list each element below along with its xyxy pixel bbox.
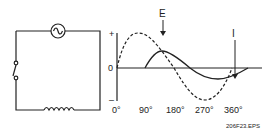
- figure-id: 206F23.EPS: [226, 123, 260, 129]
- graph: + 0 – 0° 90° 180° 270° 360° E I 206F23.E…: [108, 8, 262, 129]
- voltage-arrowhead: [160, 31, 166, 36]
- switch-contact-bottom: [14, 76, 18, 80]
- switch-blade: [13, 65, 16, 76]
- current-arrowhead: [232, 74, 238, 79]
- x-tick-90: 90°: [139, 105, 153, 115]
- x-tick-0: 0°: [112, 105, 121, 115]
- switch-contact-top: [14, 61, 18, 65]
- x-tick-270: 270°: [195, 105, 214, 115]
- ac-inductive-circuit-diagram: + 0 – 0° 90° 180° 270° 360° E I 206F23.E…: [0, 0, 277, 133]
- y-zero-label: 0: [108, 63, 113, 73]
- voltage-label: E: [159, 8, 166, 19]
- x-tick-180: 180°: [166, 105, 185, 115]
- y-plus-label: +: [109, 29, 114, 39]
- wire-left-lower: [16, 79, 44, 110]
- circuit: [13, 24, 100, 110]
- wire-top-right: [65, 31, 100, 110]
- inductor-icon: [44, 108, 74, 111]
- voltage-curve: [117, 33, 232, 100]
- current-label: I: [232, 28, 235, 39]
- x-tick-360: 360°: [224, 105, 243, 115]
- sine-glyph: [54, 28, 63, 34]
- y-minus-label: –: [109, 95, 114, 105]
